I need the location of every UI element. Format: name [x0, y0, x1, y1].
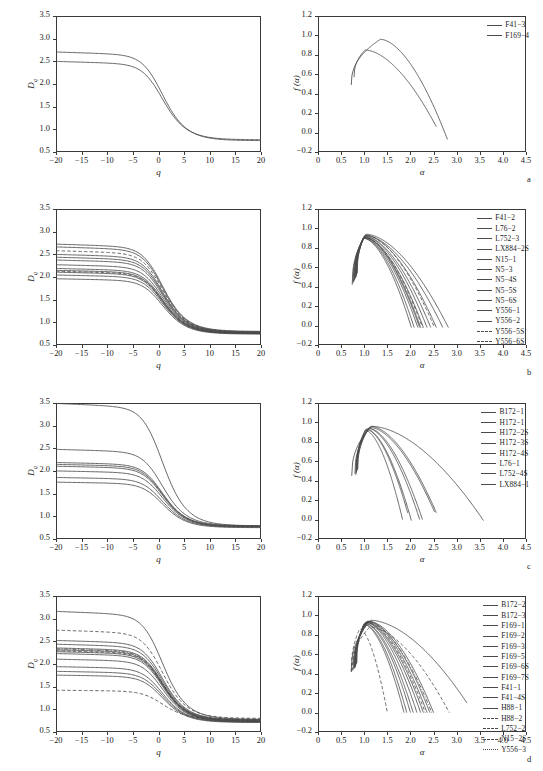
legend-item[interactable]: F41−3: [487, 20, 529, 30]
axis-tick: [315, 635, 318, 636]
legend-item[interactable]: N15−2S: [483, 734, 529, 744]
legend-item[interactable]: LX884−1: [481, 479, 529, 489]
legend-item[interactable]: F41−2: [477, 213, 529, 223]
dq-y-axis-label: Dq: [26, 259, 38, 295]
legend-item[interactable]: H88−2: [483, 713, 529, 723]
legend-item[interactable]: F169−3: [483, 641, 529, 651]
legend-item[interactable]: L76−2: [477, 223, 529, 233]
falpha-ytick-label: 0.8: [302, 437, 312, 445]
legend-item[interactable]: N15−1: [477, 254, 529, 264]
dq-curve: [56, 272, 261, 333]
legend-item[interactable]: F41−1: [483, 682, 529, 692]
legend-label: N15−1: [495, 256, 516, 263]
falpha-xtick-label: 3.5: [475, 544, 485, 552]
axis-tick: [159, 539, 160, 542]
dq-xtick-label: −20: [49, 157, 62, 165]
falpha-curve: [354, 235, 435, 327]
falpha-ytick-label: −0.2: [297, 727, 312, 735]
legend-line-swatch: [477, 290, 492, 291]
axis-tick: [315, 55, 318, 56]
dq-xtick-label: 10: [206, 157, 214, 165]
axis-tick: [184, 345, 185, 348]
legend-item[interactable]: F41−4S: [483, 693, 529, 703]
legend-item[interactable]: F169−4: [487, 30, 529, 40]
axis-tick: [315, 713, 318, 714]
falpha-curve: [354, 50, 436, 127]
axis-tick: [434, 152, 435, 155]
falpha-xtick-label: 3.0: [451, 157, 461, 165]
legend-line-swatch: [477, 218, 492, 219]
legend-item[interactable]: H172−4S: [481, 448, 529, 458]
dq-xtick-label: −15: [75, 350, 88, 358]
axis-tick: [184, 152, 185, 155]
falpha-ytick-label: 0.2: [302, 109, 312, 117]
axis-tick: [235, 152, 236, 155]
legend-item[interactable]: N5−3: [477, 264, 529, 274]
legend-label: L76−1: [499, 460, 519, 467]
panel-letter-c: c: [527, 561, 531, 571]
axis-tick: [53, 322, 56, 323]
legend-item[interactable]: F169−5: [483, 651, 529, 661]
legend-item[interactable]: Y556−2: [477, 316, 529, 326]
axis-tick: [318, 345, 319, 348]
axis-tick: [526, 539, 527, 542]
dq-xtick-label: −10: [101, 350, 114, 358]
legend-item[interactable]: L752−4S: [481, 469, 529, 479]
legend-label: B172−2: [501, 601, 525, 608]
axis-tick: [457, 732, 458, 735]
falpha-ytick-label: −0.2: [297, 534, 312, 542]
axis-tick: [159, 152, 160, 155]
panel-letter-d: d: [527, 754, 531, 764]
legend-item[interactable]: Y556−6S: [477, 337, 529, 347]
dq-xtick-label: 15: [231, 350, 239, 358]
legend-item[interactable]: Y556−1: [477, 306, 529, 316]
falpha-ytick-label: 1.0: [302, 224, 312, 232]
falpha-ytick-label: 1.2: [302, 591, 312, 599]
axis-tick: [434, 539, 435, 542]
dq-curve: [56, 690, 261, 719]
legend-item[interactable]: F169−7S: [483, 672, 529, 682]
falpha-curve: [358, 427, 435, 512]
legend-item[interactable]: F169−1: [483, 621, 529, 631]
dq-xtick-label: −10: [101, 157, 114, 165]
axis-tick: [526, 152, 527, 155]
legend-item[interactable]: H88−1: [483, 703, 529, 713]
dq-y-axis-label: Dq: [26, 646, 38, 682]
legend-line-swatch: [483, 718, 498, 719]
legend-item[interactable]: H172−1: [481, 417, 529, 427]
legend-label: H88−2: [501, 715, 522, 722]
axis-tick: [434, 345, 435, 348]
legend-item[interactable]: Y556−3: [483, 744, 529, 754]
legend-label: Y556−3: [501, 746, 526, 753]
legend-item[interactable]: Y556−5S: [477, 326, 529, 336]
legend-item[interactable]: LX884−2S: [477, 244, 529, 254]
dq-x-axis-label: q: [156, 747, 161, 757]
dq-ytick-label: 2.0: [40, 659, 50, 667]
dq-curve: [56, 644, 261, 720]
axis-tick: [364, 539, 365, 542]
dq-curve: [56, 611, 261, 719]
dq-ytick-label: 3.5: [40, 398, 50, 406]
falpha-xtick-label: 2.5: [428, 737, 438, 745]
falpha-x-axis-label: α: [420, 360, 425, 370]
legend-item[interactable]: L76−1: [481, 458, 529, 468]
dq-ytick-label: 2.0: [40, 272, 50, 280]
legend-item[interactable]: L752−2: [483, 724, 529, 734]
legend-item[interactable]: L752−3: [477, 234, 529, 244]
legend-item[interactable]: F169−6S: [483, 662, 529, 672]
axis-tick: [53, 300, 56, 301]
legend-item[interactable]: F169−2: [483, 631, 529, 641]
legend-item[interactable]: H172−2S: [481, 428, 529, 438]
legend-label: B172−1: [499, 408, 523, 415]
legend-item[interactable]: B172−1: [481, 407, 529, 417]
legend-item[interactable]: N5−4S: [477, 275, 529, 285]
legend-item[interactable]: H172−3S: [481, 438, 529, 448]
legend-item[interactable]: N5−5S: [477, 285, 529, 295]
legend-line-swatch: [483, 749, 498, 750]
legend-item[interactable]: B172−2: [483, 600, 529, 610]
legend-item[interactable]: B172−3: [483, 610, 529, 620]
falpha-ytick-label: 1.2: [302, 398, 312, 406]
falpha-x-axis-label: α: [420, 554, 425, 564]
legend-label: Y556−1: [495, 307, 520, 314]
legend-item[interactable]: N5−6S: [477, 295, 529, 305]
